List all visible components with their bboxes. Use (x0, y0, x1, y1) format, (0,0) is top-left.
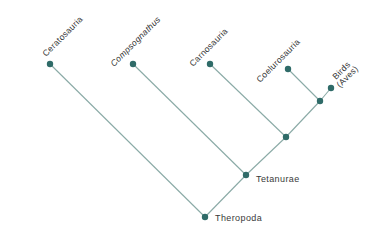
edge-coelurosauria-coel-birds (288, 69, 320, 101)
nodes (47, 61, 334, 220)
label-coelurosauria: Coelurosauria (254, 37, 302, 85)
edge-carnosauria-carno-clade (210, 64, 286, 137)
label-theropoda: Theropoda (215, 213, 262, 223)
node-carno-clade (283, 134, 289, 140)
label-compsognathus: Compsognathus (108, 14, 162, 68)
node-tetanurae (243, 172, 249, 178)
edge-compsognathus-tetanurae (133, 64, 246, 175)
node-carnosauria (207, 61, 213, 67)
label-ceratosauria: Ceratosauria (40, 14, 84, 58)
tip-labels: Ceratosauria Compsognathus Carnosauria C… (40, 14, 360, 89)
node-birds (328, 85, 334, 91)
node-coelurosauria (285, 66, 291, 72)
node-compsognathus (130, 61, 136, 67)
cladogram: Ceratosauria Compsognathus Carnosauria C… (0, 0, 374, 230)
label-tetanurae: Tetanurae (256, 174, 300, 184)
node-theropoda (202, 214, 208, 220)
edge-carno-clade-tetanurae (246, 137, 286, 175)
node-coel-birds (317, 98, 323, 104)
node-labels: Tetanurae Theropoda (215, 174, 300, 223)
edge-coel-birds-carno-clade (286, 101, 320, 137)
node-ceratosauria (47, 61, 53, 67)
edge-ceratosauria-theropoda (50, 64, 205, 217)
edge-tetanurae-theropoda (205, 175, 246, 217)
edges (50, 64, 331, 217)
